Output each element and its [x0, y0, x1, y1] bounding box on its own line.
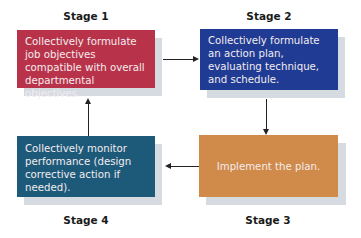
arrow-4-to-1-line — [88, 104, 89, 136]
stage-4-label: Stage 4 — [17, 214, 155, 226]
arrow-down-icon — [263, 129, 269, 135]
arrow-right-icon — [193, 56, 199, 62]
stage-1-box: Collectively formulate job objectives co… — [17, 30, 155, 88]
stage-4-box: Collectively monitor performance (design… — [17, 136, 155, 197]
stage-1-label: Stage 1 — [17, 10, 155, 22]
stage-2-box: Collectively formulate an action plan, e… — [200, 29, 338, 90]
stage-2-label: Stage 2 — [200, 10, 338, 22]
stage-3-box: Implement the plan. — [199, 135, 338, 197]
arrow-left-icon — [165, 163, 171, 169]
arrow-1-to-2-line — [163, 59, 193, 60]
stage-3-label: Stage 3 — [199, 214, 337, 226]
arrow-2-to-3-line — [266, 99, 267, 129]
arrow-3-to-4-line — [171, 166, 199, 167]
arrow-up-icon — [85, 98, 91, 104]
